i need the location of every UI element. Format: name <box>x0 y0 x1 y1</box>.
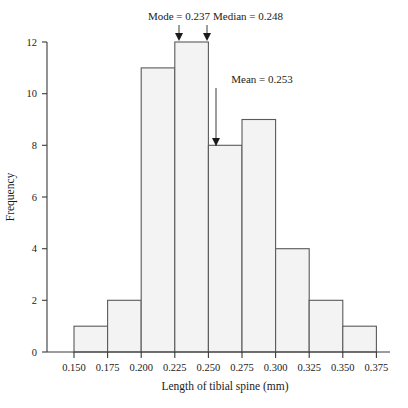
x-tick-label-0275: 0.275 <box>230 362 254 373</box>
histogram-figure: 0 2 4 6 8 10 12 Frequency 0.150 0.175 0.… <box>0 0 408 408</box>
bar-6 <box>276 249 310 352</box>
annotation-median: Median = 0.248 <box>203 10 284 41</box>
y-tick-label-8: 8 <box>32 140 37 151</box>
bar-5 <box>242 120 276 353</box>
y-axis: 0 2 4 6 8 10 12 Frequency <box>4 37 47 358</box>
annotation-mode-label: Mode = 0.237 <box>148 10 211 22</box>
histogram-plot: 0 2 4 6 8 10 12 Frequency 0.150 0.175 0.… <box>0 0 408 408</box>
x-tick-label-0225: 0.225 <box>163 362 187 373</box>
y-tick-label-0: 0 <box>32 347 37 358</box>
x-tick-label-0250: 0.250 <box>197 362 221 373</box>
x-tick-label-0375: 0.375 <box>365 362 389 373</box>
x-tick-label-0325: 0.325 <box>297 362 321 373</box>
x-tick-label-0350: 0.350 <box>331 362 355 373</box>
bar-4 <box>208 145 242 352</box>
annotation-median-label: Median = 0.248 <box>213 10 284 22</box>
annotation-mean-label: Mean = 0.253 <box>231 73 293 85</box>
y-tick-label-2: 2 <box>32 295 37 306</box>
annotation-mode-arrowhead <box>175 33 183 41</box>
y-tick-label-12: 12 <box>27 37 38 48</box>
x-tick-label-0300: 0.300 <box>264 362 288 373</box>
bar-3 <box>175 42 209 352</box>
annotation-median-arrowhead <box>203 33 211 41</box>
x-axis-title: Length of tibial spine (mm) <box>161 380 288 393</box>
y-tick-label-10: 10 <box>27 88 38 99</box>
y-axis-title: Frequency <box>4 172 17 221</box>
x-axis: 0.150 0.175 0.200 0.225 0.250 0.275 0.30… <box>47 352 390 393</box>
bar-2 <box>141 68 175 352</box>
bar-8 <box>343 326 377 352</box>
bar-1 <box>108 300 142 352</box>
y-tick-label-4: 4 <box>32 243 38 254</box>
x-tick-label-0150: 0.150 <box>62 362 86 373</box>
bar-7 <box>309 300 343 352</box>
x-tick-label-0200: 0.200 <box>129 362 153 373</box>
bars-group <box>74 42 376 352</box>
y-tick-label-6: 6 <box>32 192 37 203</box>
bar-0 <box>74 326 108 352</box>
annotation-mode: Mode = 0.237 <box>148 10 211 41</box>
x-tick-label-0175: 0.175 <box>96 362 120 373</box>
